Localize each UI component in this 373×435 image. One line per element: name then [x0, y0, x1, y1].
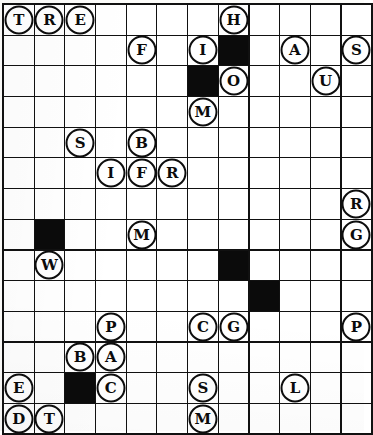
grid-cell[interactable] — [280, 251, 310, 281]
grid-cell[interactable] — [250, 189, 280, 219]
letter-tile[interactable]: B — [66, 343, 95, 372]
grid-cell[interactable] — [157, 220, 187, 250]
grid-cell[interactable]: B — [127, 128, 157, 158]
grid-cell[interactable] — [311, 36, 341, 66]
grid-cell[interactable] — [157, 189, 187, 219]
grid-cell[interactable] — [35, 281, 65, 311]
letter-tile[interactable]: R — [342, 189, 371, 218]
letter-tile[interactable]: I — [188, 36, 217, 65]
grid-cell[interactable]: A — [96, 343, 126, 373]
grid-cell[interactable] — [127, 66, 157, 96]
grid-cell[interactable]: S — [188, 373, 218, 403]
grid-cell[interactable]: G — [219, 312, 249, 342]
grid-cell[interactable]: S — [342, 36, 372, 66]
letter-tile[interactable]: M — [188, 97, 217, 126]
grid-cell[interactable]: T — [35, 404, 65, 434]
letter-tile[interactable]: T — [4, 5, 33, 34]
grid-cell[interactable] — [250, 251, 280, 281]
letter-tile[interactable]: S — [188, 374, 217, 403]
grid-cell[interactable] — [35, 66, 65, 96]
letter-tile[interactable]: F — [127, 36, 156, 65]
grid-cell[interactable] — [157, 281, 187, 311]
grid-cell[interactable] — [157, 404, 187, 434]
letter-tile[interactable]: M — [188, 404, 217, 433]
grid-cell[interactable] — [280, 66, 310, 96]
grid-cell[interactable] — [311, 97, 341, 127]
letter-tile[interactable]: T — [35, 404, 64, 433]
grid-cell[interactable] — [65, 281, 95, 311]
grid-cell[interactable] — [4, 158, 34, 188]
grid-cell[interactable] — [65, 158, 95, 188]
grid-cell[interactable] — [280, 5, 310, 35]
grid-cell[interactable] — [96, 189, 126, 219]
grid-cell[interactable] — [96, 36, 126, 66]
grid-cell[interactable] — [311, 158, 341, 188]
grid-cell[interactable]: B — [65, 343, 95, 373]
grid-cell[interactable] — [342, 404, 372, 434]
grid-cell[interactable] — [219, 404, 249, 434]
letter-tile[interactable]: E — [4, 374, 33, 403]
grid-cell[interactable] — [188, 281, 218, 311]
grid-cell[interactable] — [250, 97, 280, 127]
letter-tile[interactable]: D — [4, 404, 33, 433]
grid-cell[interactable]: S — [65, 128, 95, 158]
letter-tile[interactable]: C — [96, 374, 125, 403]
grid-cell[interactable] — [250, 36, 280, 66]
grid-cell[interactable] — [65, 220, 95, 250]
grid-cell[interactable] — [250, 373, 280, 403]
grid-cell[interactable] — [280, 404, 310, 434]
grid-cell[interactable] — [280, 158, 310, 188]
grid-cell[interactable] — [219, 189, 249, 219]
grid-cell[interactable] — [188, 343, 218, 373]
grid-cell[interactable]: F — [127, 36, 157, 66]
grid-cell[interactable] — [65, 36, 95, 66]
grid-cell[interactable] — [4, 66, 34, 96]
grid-cell[interactable] — [157, 66, 187, 96]
grid-cell[interactable] — [4, 189, 34, 219]
grid-cell[interactable] — [157, 97, 187, 127]
grid-cell[interactable] — [250, 220, 280, 250]
grid-cell[interactable] — [157, 5, 187, 35]
grid-cell[interactable]: E — [65, 5, 95, 35]
grid-cell[interactable]: R — [35, 5, 65, 35]
letter-tile[interactable]: P — [96, 312, 125, 341]
grid-cell[interactable]: A — [280, 36, 310, 66]
grid-cell[interactable] — [96, 220, 126, 250]
grid-cell[interactable] — [311, 220, 341, 250]
letter-tile[interactable]: E — [66, 5, 95, 34]
grid-cell[interactable]: G — [342, 220, 372, 250]
grid-cell[interactable] — [280, 343, 310, 373]
grid-cell[interactable] — [188, 5, 218, 35]
grid-cell[interactable]: P — [342, 312, 372, 342]
grid-cell[interactable] — [35, 189, 65, 219]
grid-cell[interactable] — [4, 343, 34, 373]
grid-cell[interactable] — [4, 251, 34, 281]
letter-tile[interactable]: A — [96, 343, 125, 372]
grid-cell[interactable]: F — [127, 158, 157, 188]
grid-cell[interactable] — [280, 312, 310, 342]
grid-cell[interactable] — [342, 373, 372, 403]
grid-cell[interactable] — [311, 312, 341, 342]
grid-cell[interactable] — [96, 404, 126, 434]
grid-cell[interactable] — [280, 281, 310, 311]
grid-cell[interactable] — [127, 373, 157, 403]
grid-cell[interactable] — [157, 36, 187, 66]
grid-cell[interactable] — [127, 5, 157, 35]
grid-cell[interactable] — [342, 158, 372, 188]
grid-cell[interactable]: M — [188, 404, 218, 434]
grid-cell[interactable] — [219, 128, 249, 158]
letter-tile[interactable]: G — [219, 312, 248, 341]
grid-cell[interactable] — [280, 189, 310, 219]
grid-cell[interactable]: I — [96, 158, 126, 188]
letter-tile[interactable]: O — [219, 67, 248, 96]
grid-cell[interactable] — [342, 281, 372, 311]
grid-cell[interactable] — [127, 97, 157, 127]
letter-tile[interactable]: M — [127, 220, 156, 249]
grid-cell[interactable] — [35, 158, 65, 188]
grid-cell[interactable]: M — [127, 220, 157, 250]
grid-cell[interactable]: E — [4, 373, 34, 403]
grid-cell[interactable]: O — [219, 66, 249, 96]
grid-cell[interactable] — [311, 251, 341, 281]
grid-cell[interactable] — [311, 373, 341, 403]
grid-cell[interactable] — [4, 97, 34, 127]
